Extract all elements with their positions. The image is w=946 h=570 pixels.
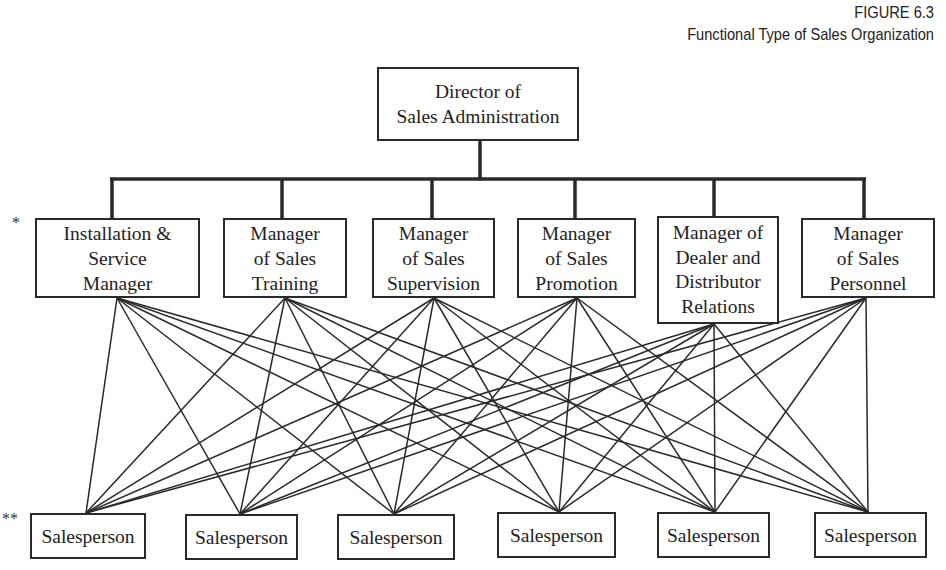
salesperson-box: Salesperson [497,512,616,558]
salesperson-box: Salesperson [185,514,298,560]
salesperson-label: Salesperson [195,525,288,550]
manager-salesperson-mesh [86,298,868,514]
salesperson-box: Salesperson [814,512,927,558]
manager-label: Manager of Sales Personnel [830,221,907,296]
manager-label: Manager of Sales Supervision [387,221,480,296]
hierarchy-connectors [110,140,866,219]
salesperson-label: Salesperson [510,523,603,548]
manager-sales-promotion: Manager of Sales Promotion [517,218,636,298]
salesperson-label: Salesperson [824,523,917,548]
director-label: Director of Sales Administration [396,79,559,129]
manager-label: Manager of Sales Promotion [535,221,617,296]
manager-installation-service: Installation & Service Manager [35,218,200,298]
manager-dealer-distributor-relations: Manager of Dealer and Distributor Relati… [657,216,779,324]
salesperson-box: Salesperson [657,512,770,558]
salesperson-label: Salesperson [349,525,442,550]
manager-label: Installation & Service Manager [64,221,172,296]
salesperson-row-marker: ** [2,510,18,528]
manager-label: Manager of Dealer and Distributor Relati… [673,221,763,319]
manager-label: Manager of Sales Training [250,221,319,296]
manager-row-marker: * [12,214,20,232]
manager-sales-supervision: Manager of Sales Supervision [372,218,495,298]
salesperson-label: Salesperson [41,524,134,549]
manager-sales-training: Manager of Sales Training [223,218,347,298]
manager-sales-personnel: Manager of Sales Personnel [801,218,935,298]
director-box: Director of Sales Administration [377,67,579,141]
salesperson-box: Salesperson [337,514,455,560]
salesperson-label: Salesperson [667,523,760,548]
salesperson-box: Salesperson [30,513,146,559]
